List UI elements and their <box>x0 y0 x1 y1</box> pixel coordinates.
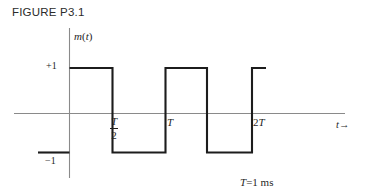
period-caption: T=1 ms <box>240 176 273 188</box>
waveform-plot <box>0 0 371 196</box>
x-axis-label: t→ <box>336 119 349 130</box>
y-tick-label-plus-one: +1 <box>46 60 57 71</box>
x-tick-label-t-half-denominator: 2 <box>110 129 118 141</box>
x-axis-label-arrow: → <box>339 119 350 130</box>
y-axis-label-close-paren: ) <box>89 30 93 42</box>
signal-waveform <box>70 68 267 153</box>
figure-container: FIGURE P3.1 m(t) +1 −1 T 2 T 2T t→ T=1 m… <box>0 0 371 196</box>
x-tick-label-t: T <box>167 116 173 128</box>
x-tick-label-t-half-numerator: T <box>110 116 118 129</box>
x-tick-label-t-half: T 2 <box>110 116 118 141</box>
y-tick-label-minus-one: −1 <box>45 155 56 166</box>
x-tick-label-2t: 2T <box>253 116 265 128</box>
period-caption-value: =1 ms <box>246 176 273 188</box>
y-axis-label-m: m <box>74 30 82 42</box>
y-axis-label: m(t) <box>74 30 92 42</box>
x-tick-label-2t-symbol: T <box>259 116 265 128</box>
